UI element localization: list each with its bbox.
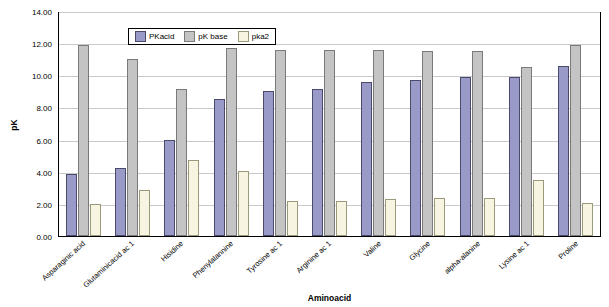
bar xyxy=(263,91,274,236)
bar xyxy=(570,45,581,236)
y-axis-tick-label: 2.00 xyxy=(36,200,52,209)
y-axis-tick-label: 12.00 xyxy=(32,40,52,49)
bar-group xyxy=(207,13,256,236)
legend-swatch-icon-2 xyxy=(238,31,249,42)
bar-group xyxy=(354,13,403,236)
bar xyxy=(484,198,495,236)
x-axis-tick-cell: Glutaminicacid ac 1 xyxy=(107,237,156,295)
plot-frame xyxy=(58,12,601,237)
x-axis-tick-label: Valine xyxy=(362,239,383,259)
y-axis-tick-label: 6.00 xyxy=(36,136,52,145)
x-axis-tick-label: Lysine ac 1 xyxy=(497,239,531,271)
bar xyxy=(324,50,335,236)
bar xyxy=(336,201,347,236)
bar-group xyxy=(502,13,551,236)
bar xyxy=(275,50,286,236)
y-axis-tick-label: 10.00 xyxy=(32,72,52,81)
x-axis-tick-label: Asparaginic acid xyxy=(40,239,87,283)
legend-item-0: PKacid xyxy=(135,31,174,42)
bar-group xyxy=(157,13,206,236)
bar xyxy=(533,180,544,236)
x-axis-tick-cell: Proline xyxy=(552,237,601,295)
bar xyxy=(226,48,237,236)
bar xyxy=(422,51,433,236)
x-axis-tick-label: Hisidine xyxy=(160,239,186,264)
bar xyxy=(78,45,89,236)
legend-item-2: pka2 xyxy=(238,31,269,42)
bar xyxy=(460,77,471,236)
bar-group xyxy=(305,13,354,236)
legend-swatch-icon-1 xyxy=(184,31,195,42)
legend-label-1: pK base xyxy=(198,32,227,41)
legend-item-1: pK base xyxy=(184,31,227,42)
x-axis-tick-label: Proline xyxy=(557,239,580,261)
bar-group xyxy=(551,13,600,236)
bar xyxy=(373,50,384,236)
x-axis-tick-cell: Arginine ac 1 xyxy=(305,237,354,295)
chart-container: Pk aminoacids pK 0.002.004.006.008.0010.… xyxy=(0,0,609,307)
bar xyxy=(385,199,396,236)
bar-group xyxy=(453,13,502,236)
bar-group xyxy=(59,13,108,236)
x-axis-tick-cell: alpha-alanine xyxy=(453,237,502,295)
bar-group xyxy=(108,13,157,236)
legend-label-0: PKacid xyxy=(149,32,174,41)
bar xyxy=(410,80,421,236)
bar xyxy=(312,89,323,236)
bar xyxy=(139,190,150,236)
bar-groups xyxy=(59,13,600,236)
bar-group xyxy=(403,13,452,236)
bar xyxy=(509,77,520,236)
chart-legend: PKacid pK base pka2 xyxy=(128,28,276,45)
bar xyxy=(558,66,569,236)
bar xyxy=(472,51,483,236)
bar xyxy=(90,204,101,236)
y-axis-tick-label: 0.00 xyxy=(36,233,52,242)
bar xyxy=(115,168,126,236)
bar xyxy=(188,160,199,236)
x-axis-title: Aminoacid xyxy=(58,293,601,303)
bar xyxy=(66,174,77,236)
bar xyxy=(582,203,593,236)
bar-group xyxy=(256,13,305,236)
y-axis-tick-label: 8.00 xyxy=(36,104,52,113)
y-axis-tick-label: 4.00 xyxy=(36,168,52,177)
x-axis-tick-cell: Valine xyxy=(354,237,403,295)
bar xyxy=(164,140,175,236)
bar xyxy=(238,171,249,236)
x-axis-tick-labels: Asparaginic acidGlutaminicacid ac 1Hisid… xyxy=(58,237,601,295)
bar xyxy=(287,201,298,236)
y-axis-tick-label: 14.00 xyxy=(32,8,52,17)
legend-swatch-icon-0 xyxy=(135,31,146,42)
bar xyxy=(361,82,372,237)
bar xyxy=(214,99,225,236)
x-axis-tick-label: Glycine xyxy=(408,239,433,262)
bar xyxy=(434,198,445,236)
bar xyxy=(176,89,187,236)
bar xyxy=(521,67,532,236)
x-axis-tick-cell: Lysine ac 1 xyxy=(502,237,551,295)
bar xyxy=(127,59,138,236)
legend-label-2: pka2 xyxy=(252,32,269,41)
y-axis-tick-labels: 0.002.004.006.008.0010.0012.0014.00 xyxy=(18,12,56,237)
